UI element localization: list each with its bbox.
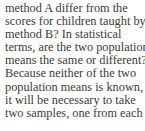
text-line: population means is known, bbox=[5, 81, 145, 94]
text-line: it will be necessary to take bbox=[5, 94, 145, 107]
text-line: Because neither of the two bbox=[5, 67, 145, 80]
document-paragraph: method A differ from the scores for chil… bbox=[5, 2, 145, 120]
text-line: two samples, one from each bbox=[5, 107, 145, 120]
